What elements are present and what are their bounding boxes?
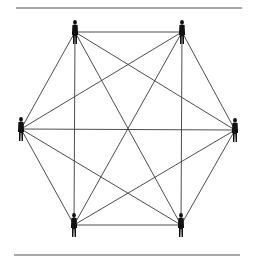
edge-right-bottom-left — [74, 130, 235, 225]
person-icon — [178, 213, 184, 237]
edge-top-right-bottom-left — [74, 32, 182, 225]
edge-top-right-right — [182, 32, 235, 130]
edge-left-bottom-left — [21, 129, 74, 225]
horizontal-rules — [14, 8, 242, 255]
connection-lines — [21, 32, 235, 225]
network-diagram — [0, 0, 256, 260]
edge-left-right — [21, 129, 235, 130]
person-icon — [18, 117, 24, 141]
person-icon — [232, 118, 238, 142]
person-icon — [71, 213, 77, 237]
edge-top-left-bottom-left — [74, 32, 75, 225]
edge-top-right-left — [21, 32, 182, 129]
edge-top-right-bottom-right — [181, 32, 182, 225]
edge-top-left-left — [21, 32, 75, 129]
edge-left-bottom-right — [21, 129, 181, 225]
edge-right-bottom-right — [181, 130, 235, 225]
